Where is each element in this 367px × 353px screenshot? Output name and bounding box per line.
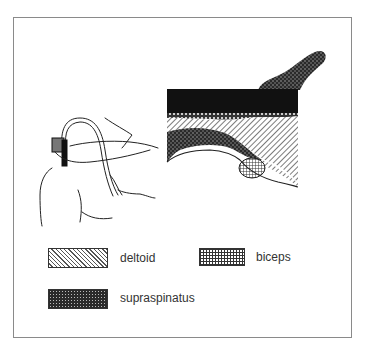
ultrasound-section [167, 51, 326, 187]
legend-label-supraspinatus: supraspinatus [120, 291, 195, 305]
legend-label-deltoid: deltoid [120, 251, 155, 265]
legend-swatch-supraspinatus [48, 289, 108, 309]
probe-illustration [40, 118, 158, 226]
legend-label-biceps: biceps [256, 250, 291, 264]
legend-swatch-deltoid [48, 248, 108, 268]
legend-swatch-biceps [199, 248, 245, 266]
